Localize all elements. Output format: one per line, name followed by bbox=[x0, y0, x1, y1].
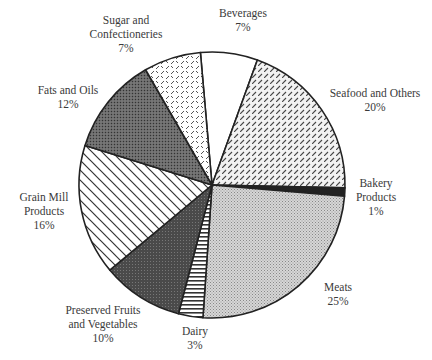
slice-percent: 3% bbox=[182, 338, 208, 352]
slice-name: Beverages bbox=[219, 6, 267, 20]
slice-name: Dairy bbox=[182, 324, 208, 338]
label-fats-and-oils: Fats and Oils12% bbox=[38, 83, 99, 111]
label-meats: Meats25% bbox=[324, 280, 352, 308]
slice-name: Sugar and bbox=[90, 13, 163, 27]
slice-percent: 25% bbox=[324, 294, 352, 308]
label-preserved-fruits-and-vegetables: Preserved Fruitsand Vegetables10% bbox=[65, 303, 140, 345]
slice-name: Seafood and Others bbox=[330, 86, 421, 100]
pie-slices bbox=[79, 52, 345, 318]
slice-name: Fats and Oils bbox=[38, 83, 99, 97]
slice-percent: 10% bbox=[65, 331, 140, 345]
slice-name: Bakery bbox=[356, 176, 396, 190]
slice-name: Products bbox=[356, 190, 396, 204]
slice-percent: 1% bbox=[356, 204, 396, 218]
label-seafood-and-others: Seafood and Others20% bbox=[330, 86, 421, 114]
slice-percent: 16% bbox=[20, 218, 69, 232]
slice-name: Confectioneries bbox=[90, 27, 163, 41]
slice-percent: 20% bbox=[330, 100, 421, 114]
label-dairy: Dairy3% bbox=[182, 324, 208, 352]
label-sugar-and-confectioneries: Sugar andConfectioneries7% bbox=[90, 13, 163, 55]
slice-percent: 7% bbox=[90, 41, 163, 55]
slice-percent: 12% bbox=[38, 97, 99, 111]
slice-percent: 7% bbox=[219, 20, 267, 34]
label-beverages: Beverages7% bbox=[219, 6, 267, 34]
slice-name: and Vegetables bbox=[65, 317, 140, 331]
slice-name: Preserved Fruits bbox=[65, 303, 140, 317]
slice-name: Grain Mill bbox=[20, 190, 69, 204]
slice-name: Products bbox=[20, 204, 69, 218]
label-grain-mill-products: Grain MillProducts16% bbox=[20, 190, 69, 232]
slice-name: Meats bbox=[324, 280, 352, 294]
label-bakery-products: BakeryProducts1% bbox=[356, 176, 396, 218]
